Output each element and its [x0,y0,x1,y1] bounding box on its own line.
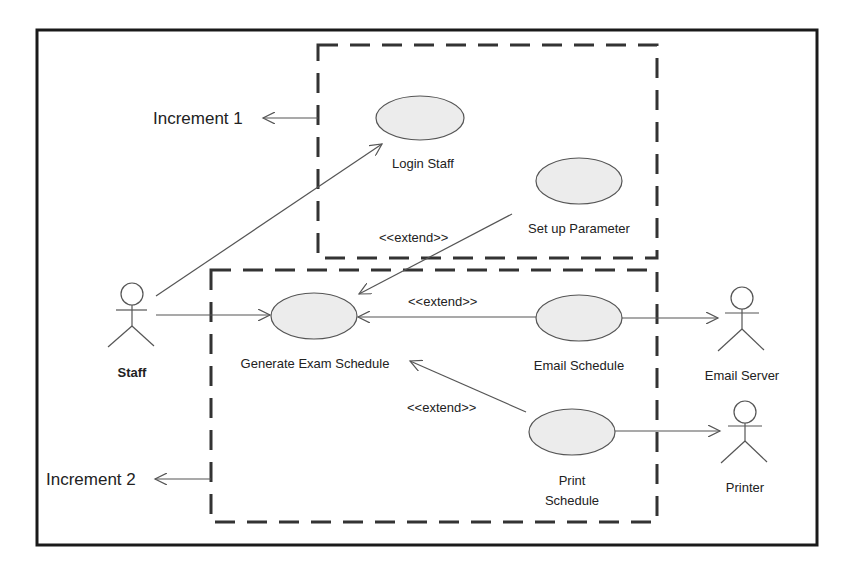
use-case-label: Login Staff [392,156,454,171]
actor-staff-label: Staff [118,365,148,380]
increment-1-label: Increment 1 [153,109,243,128]
use-case-login-staff: Login Staff [376,96,464,171]
use-case-print-schedule: Print Schedule [529,409,615,508]
extend-label: <<extend>> [379,230,448,245]
use-case-label: Schedule [545,493,599,508]
extend-setup-to-generate [359,214,512,294]
actor-staff [108,283,154,347]
use-case-email-schedule: Email Schedule [534,295,624,373]
use-case-diagram: Increment 1 Increment 2 Login Staff Set … [0,0,845,571]
extend-label: <<extend>> [408,294,477,309]
use-case-setup-parameter: Set up Parameter [528,158,631,236]
use-case-generate-exam-schedule: Generate Exam Schedule [241,293,390,371]
actor-printer [721,401,767,463]
extend-label: <<extend>> [407,400,476,415]
use-case-label: Print [559,473,586,488]
actor-email-server-label: Email Server [705,368,780,383]
actor-printer-label: Printer [726,480,765,495]
person-icon [734,401,756,423]
association-staff-login [156,144,382,296]
use-case-label: Email Schedule [534,358,624,373]
use-case-label: Set up Parameter [528,221,631,236]
person-icon [121,283,143,305]
person-icon [731,287,753,309]
actor-email-server [718,287,764,351]
use-case-label: Generate Exam Schedule [241,356,390,371]
increment-2-label: Increment 2 [46,470,136,489]
